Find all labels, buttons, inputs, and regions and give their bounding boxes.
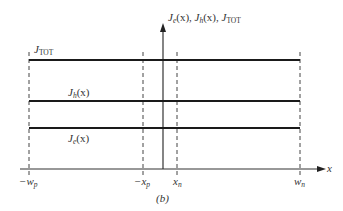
figure-caption: (b) bbox=[156, 193, 169, 204]
y-axis-label: Je(x), Jh(x), JTOT bbox=[168, 12, 241, 25]
jh-label: Jh(x) bbox=[68, 87, 89, 100]
x-axis-arrow-icon bbox=[317, 166, 326, 172]
tick-wn: wn bbox=[294, 176, 305, 189]
je-label: Je(x) bbox=[68, 133, 89, 146]
tick-neg-xp: −xp bbox=[134, 176, 150, 189]
jtot-label: JTOT bbox=[34, 44, 53, 57]
x-axis-label: x bbox=[327, 163, 332, 174]
tick-neg-wp: −wp bbox=[19, 176, 38, 189]
diagram-canvas bbox=[0, 0, 343, 211]
tick-xn: xn bbox=[173, 176, 182, 189]
y-axis-arrow-icon bbox=[160, 23, 166, 32]
